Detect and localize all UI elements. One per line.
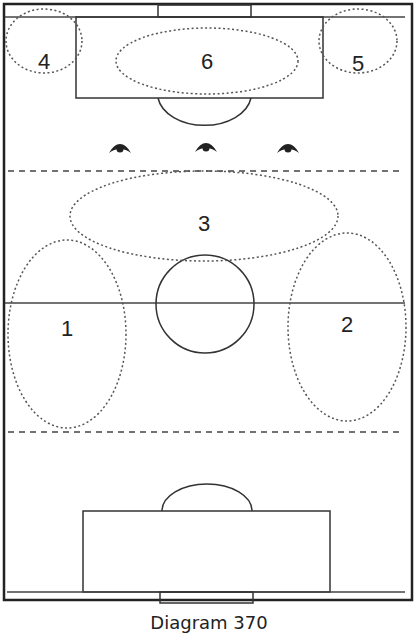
zone-4-label: 4 <box>38 49 50 74</box>
top-penalty-area <box>76 17 323 98</box>
zone-3-label: 3 <box>198 211 210 236</box>
diagram-caption: Diagram 370 <box>0 612 418 633</box>
top-goal <box>158 5 251 17</box>
bottom-penalty-arc <box>162 484 252 511</box>
bottom-penalty-area <box>83 511 330 592</box>
top-penalty-arc <box>158 98 251 125</box>
zone-6-label: 6 <box>201 49 213 74</box>
zone-5-label: 5 <box>352 51 364 76</box>
bottom-goal <box>160 592 253 603</box>
player-icon <box>277 144 299 153</box>
zone-2-label: 2 <box>341 312 353 337</box>
centre-circle <box>156 255 254 353</box>
player-icon <box>109 144 131 153</box>
player-icon <box>195 143 217 152</box>
zone-1-label: 1 <box>61 316 73 341</box>
